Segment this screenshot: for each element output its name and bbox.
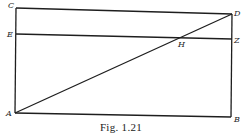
segment-EZ [16, 34, 232, 39]
segments [15, 8, 232, 117]
label-D: D [233, 9, 241, 18]
label-Z: Z [233, 36, 240, 45]
label-A: A [5, 109, 12, 118]
figure-caption: Fig. 1.21 [100, 121, 142, 133]
label-H: H [177, 40, 186, 49]
segment-CD [16, 8, 232, 14]
label-B: B [233, 115, 240, 124]
segment-CA [15, 8, 16, 113]
geometry-figure: C D E Z H A B Fig. 1.21 [0, 0, 242, 136]
segment-DB [231, 14, 232, 117]
label-E: E [6, 30, 13, 39]
segment-AB [15, 113, 231, 117]
point-labels: C D E Z H A B [5, 1, 241, 124]
label-C: C [8, 1, 14, 10]
segment-AD-diagonal [15, 14, 232, 113]
